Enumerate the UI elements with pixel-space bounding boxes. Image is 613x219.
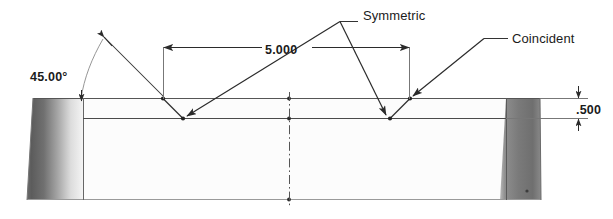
- angle-leader-to-apex: [104, 37, 163, 96]
- coincident-relation-label: Coincident: [512, 32, 574, 45]
- right-block-reference-dot: [525, 189, 528, 192]
- plate-body-fill: [27, 98, 541, 200]
- angle-dimension-group: [81, 37, 163, 101]
- angle-arrow-upper: [104, 37, 112, 46]
- thickness-dimension-label: .500: [576, 104, 601, 117]
- left-end-block: [27, 98, 83, 200]
- notch-left-bottom-vertex: [181, 116, 185, 120]
- coincident-leader-line: [413, 39, 484, 97]
- coincident-leader-group: [413, 39, 508, 97]
- angle-dimension-label: 45.00°: [30, 71, 67, 84]
- length-dimension-label: 5.000: [265, 44, 297, 57]
- part-body: [27, 96, 541, 201]
- notch-right-bottom-vertex: [388, 116, 392, 120]
- angle-witness-arc: [81, 39, 103, 99]
- symmetric-relation-label: Symmetric: [363, 9, 425, 22]
- drawing-canvas: 45.00° 5.000 .500 Symmetric Coincident: [0, 0, 613, 219]
